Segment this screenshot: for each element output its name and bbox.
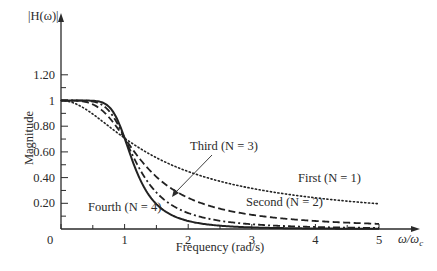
x-tick-label: 1 bbox=[121, 233, 127, 247]
y-tick-label: 1.20 bbox=[33, 68, 55, 82]
y-axis-top-label: |H(ω)| bbox=[28, 9, 59, 23]
axes bbox=[61, 20, 414, 229]
y-tick-label: 0.60 bbox=[33, 145, 55, 159]
x-axis-label: Frequency (rad/s) bbox=[176, 240, 265, 254]
butterworth-magnitude-chart: 123450.200.400.600.8011.20 |H(ω)| Magnit… bbox=[0, 0, 437, 271]
annotation-first: First (N = 1) bbox=[298, 171, 361, 185]
y-axis-arrow-icon bbox=[58, 13, 64, 22]
x-axis-end-label: ω/ωc bbox=[398, 232, 423, 248]
tick-labels: 123450.200.400.600.8011.20 bbox=[33, 68, 382, 247]
y-tick-label: 0.80 bbox=[33, 119, 55, 133]
y-tick-label: 1 bbox=[49, 94, 55, 108]
x-tick-label: 5 bbox=[376, 233, 382, 247]
y-tick-label: 0.40 bbox=[33, 171, 55, 185]
annotation-fourth: Fourth (N = 4) bbox=[88, 200, 161, 214]
origin-label: 0 bbox=[47, 233, 53, 247]
annotation-third: Third (N = 3) bbox=[190, 139, 258, 153]
y-axis-label: Magnitude bbox=[22, 110, 36, 165]
annotation-third-arrow bbox=[175, 155, 212, 193]
annotation-second: Second (N = 2) bbox=[246, 195, 323, 209]
x-tick-label: 4 bbox=[312, 233, 319, 247]
y-tick-label: 0.20 bbox=[33, 196, 55, 210]
